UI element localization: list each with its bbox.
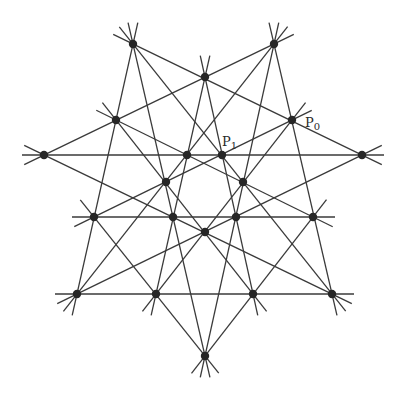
point-a — [129, 40, 137, 48]
line-inqr — [57, 145, 382, 303]
point-l — [90, 213, 98, 221]
line-djqt — [102, 103, 266, 312]
point-d — [112, 116, 120, 124]
point-t — [249, 290, 257, 298]
line-cgms — [151, 56, 210, 316]
point-h — [218, 151, 226, 159]
point-c — [201, 73, 209, 81]
labels-layer: P0 P1 — [222, 115, 320, 151]
line-adlr — [72, 23, 138, 316]
point-e — [288, 116, 296, 124]
point-q — [201, 228, 209, 236]
label-p0-base: P — [305, 115, 314, 130]
point-m — [169, 213, 177, 221]
line-lsv — [80, 200, 218, 373]
label-p0: P0 — [305, 115, 320, 132]
label-p0-sub: 0 — [314, 121, 320, 132]
line-dgko — [96, 110, 332, 226]
point-j — [162, 178, 170, 186]
point-o — [309, 213, 317, 221]
line-otv — [192, 200, 327, 374]
label-p1: P1 — [222, 134, 237, 151]
point-u — [328, 290, 336, 298]
label-p1-sub: 1 — [231, 140, 237, 151]
configuration-diagram: P0 P1 — [0, 0, 405, 400]
point-i — [358, 151, 366, 159]
point-r — [73, 290, 81, 298]
point-b — [270, 40, 278, 48]
line-bnv — [200, 23, 279, 378]
line-bcdf — [24, 34, 294, 164]
line-beou — [269, 23, 337, 316]
point-n — [232, 213, 240, 221]
line-acei — [113, 34, 382, 164]
label-p1-base: P — [222, 134, 231, 149]
point-f — [40, 151, 48, 159]
point-s — [152, 290, 160, 298]
point-g — [183, 151, 191, 159]
point-k — [239, 178, 247, 186]
point-v — [201, 352, 209, 360]
